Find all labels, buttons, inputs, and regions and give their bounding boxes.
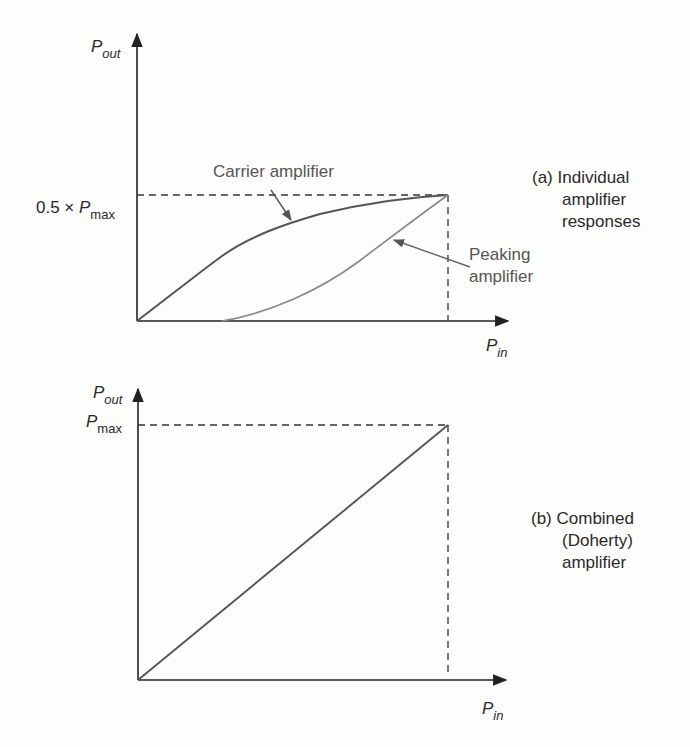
panel-b-y-tick-label: Pmax	[86, 413, 122, 430]
panel-a-caption: (a) Individual amplifier responses	[532, 167, 640, 233]
panel-b-caption-line-1: (b) Combined	[531, 508, 634, 530]
figure-graphics	[0, 0, 690, 747]
y-axis-label-main: P	[91, 37, 102, 56]
y-axis-label-sub: out	[102, 46, 120, 61]
panel-a-caption-line-2: amplifier	[532, 189, 640, 211]
panel-a-x-axis-label: Pin	[486, 337, 507, 354]
y-tick-sub: max	[90, 207, 115, 222]
x-axis-label-sub: in	[493, 708, 503, 723]
peaking-annotation-arrow	[394, 240, 470, 267]
y-tick-main: P	[86, 412, 97, 431]
carrier-amplifier-curve	[137, 195, 448, 321]
x-axis-label-sub: in	[497, 345, 507, 360]
x-axis-label-main: P	[486, 336, 497, 355]
panel-b-caption: (b) Combined (Doherty) amplifier	[531, 508, 634, 574]
y-axis-label-main: P	[93, 383, 104, 402]
panel-b-graphics	[138, 389, 506, 680]
panel-a-y-axis-label: Pout	[91, 38, 120, 55]
panel-b-x-axis-label: Pin	[482, 700, 503, 717]
panel-b-caption-line-3: amplifier	[531, 552, 634, 574]
panel-b-y-axis-label: Pout	[93, 384, 122, 401]
peaking-amplifier-annotation: Peaking amplifier	[469, 244, 533, 288]
peaking-annotation-line-1: Peaking	[469, 244, 533, 266]
y-axis-label-sub: out	[104, 392, 122, 407]
y-tick-prefix: 0.5 ×	[36, 198, 79, 217]
y-tick-sub: max	[97, 421, 122, 436]
peaking-amplifier-curve	[222, 195, 448, 321]
peaking-annotation-line-2: amplifier	[469, 266, 533, 288]
y-tick-main: P	[79, 198, 90, 217]
panel-a-y-tick-label: 0.5 × Pmax	[36, 199, 115, 216]
x-axis-label-main: P	[482, 699, 493, 718]
panel-a-caption-line-1: (a) Individual	[532, 167, 640, 189]
doherty-figure: Pout 0.5 × Pmax Pin Carrier amplifier Pe…	[0, 0, 690, 747]
panel-a-caption-line-3: responses	[532, 211, 640, 233]
carrier-amplifier-annotation: Carrier amplifier	[213, 163, 334, 180]
combined-doherty-line	[138, 425, 448, 680]
panel-b-caption-line-2: (Doherty)	[531, 530, 634, 552]
